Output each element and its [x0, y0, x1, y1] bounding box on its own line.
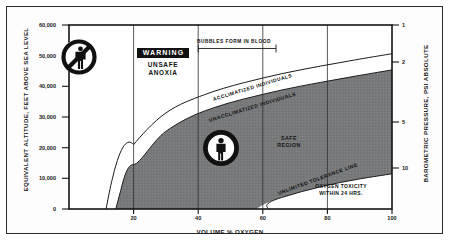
y-tick-label-10000: 10,000 — [14, 175, 56, 181]
safe-region-label-line-1: SAFE — [263, 135, 315, 142]
warning-annotation: WARNING UNSAFE ANOXIA — [130, 41, 196, 76]
y-tick-label-0: 0 — [14, 206, 56, 212]
oxygen-toxicity-annotation: OXYGEN TOXICITY WITHIN 24 HRS. — [306, 183, 376, 197]
bubbles-form-in-blood-label: BUBBLES FORM IN BLOOD — [197, 39, 271, 44]
pressure-tick-label-1: 1 — [402, 22, 432, 28]
oxygen-toxicity-line-2: WITHIN 24 HRS. — [306, 190, 376, 197]
right-axis-ticks — [392, 25, 399, 168]
pressure-tick-label-2: 2 — [402, 59, 432, 65]
person-ok-icon — [203, 130, 239, 166]
no-person-icon — [62, 40, 97, 75]
y-tick-label-20000: 20,000 — [14, 145, 56, 151]
x-tick-label-40: 40 — [183, 215, 213, 221]
y-tick-label-50000: 50,000 — [14, 53, 56, 59]
x-tick-label-100: 100 — [377, 215, 407, 221]
safe-region-label: SAFE REGION — [263, 135, 315, 149]
y-tick-label-40000: 40,000 — [14, 83, 56, 89]
figure-root: EQUIVALENT ALTITUDE, FEET ABOVE SEA LEVE… — [0, 0, 451, 249]
oxygen-toxicity-line-1: OXYGEN TOXICITY — [306, 183, 376, 190]
x-axis-title: VOLUME % OXYGEN — [160, 228, 300, 235]
y-tick-label-60000: 60,000 — [14, 22, 56, 28]
pressure-tick-label-5: 5 — [402, 119, 432, 125]
y-tick-label-30000: 30,000 — [14, 114, 56, 120]
x-tick-label-60: 60 — [248, 215, 278, 221]
safe-region-label-line-2: REGION — [263, 142, 315, 149]
x-tick-label-80: 80 — [312, 215, 342, 221]
warning-unsafe-text: UNSAFE — [130, 61, 196, 68]
warning-badge: WARNING — [137, 48, 190, 58]
warning-anoxia-text: ANOXIA — [130, 69, 196, 76]
oxygen-altitude-chart — [0, 0, 451, 249]
x-tick-label-20: 20 — [119, 215, 149, 221]
pressure-tick-label-10: 10 — [402, 165, 432, 171]
